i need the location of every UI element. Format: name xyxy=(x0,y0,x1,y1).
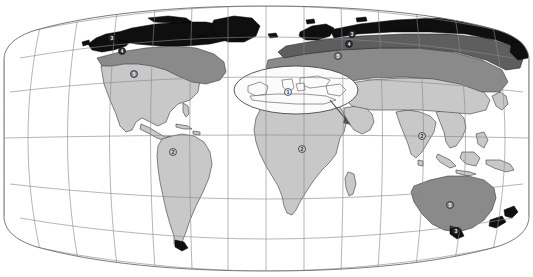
marker-circle xyxy=(419,133,426,140)
map-marker-northern-europe[interactable]: 3 xyxy=(349,31,356,38)
map-marker-africa[interactable]: 2 xyxy=(299,146,306,153)
world-map-canvas: 345345122253 xyxy=(0,0,533,277)
map-marker-alaska[interactable]: 3 xyxy=(109,35,116,42)
marker-circle xyxy=(285,89,292,96)
land-sri-lanka xyxy=(418,160,423,166)
map-marker-south-asia[interactable]: 2 xyxy=(419,133,426,140)
map-marker-central-asia[interactable]: 5 xyxy=(335,53,342,60)
map-marker-south-america[interactable]: 2 xyxy=(170,149,177,156)
world-map-figure: 345345122253 xyxy=(0,0,533,277)
marker-circle xyxy=(299,146,306,153)
marker-circle xyxy=(109,35,116,42)
marker-circle xyxy=(453,228,460,235)
marker-circle xyxy=(335,53,342,60)
land-svalbard xyxy=(306,19,315,24)
land-arctic-tick-1 xyxy=(196,35,207,40)
marker-circle xyxy=(170,149,177,156)
map-marker-mediterranean[interactable]: 1 xyxy=(285,89,292,96)
map-marker-western-siberia[interactable]: 4 xyxy=(346,41,353,48)
map-marker-united-states[interactable]: 5 xyxy=(131,71,138,78)
map-marker-northwest-canada[interactable]: 4 xyxy=(119,48,126,55)
map-marker-tasmania[interactable]: 3 xyxy=(453,228,460,235)
marker-circle xyxy=(119,48,126,55)
map-body xyxy=(0,0,533,277)
marker-circle xyxy=(349,31,356,38)
marker-circle xyxy=(346,41,353,48)
marker-circle xyxy=(447,202,454,209)
land-novaya-zemlya xyxy=(356,17,367,22)
marker-circle xyxy=(131,71,138,78)
land-hispaniola xyxy=(193,131,200,135)
map-marker-australia[interactable]: 5 xyxy=(447,202,454,209)
